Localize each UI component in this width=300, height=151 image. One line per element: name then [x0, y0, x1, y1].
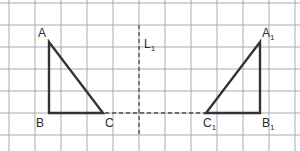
- vertex-label-main: A: [262, 26, 270, 40]
- vertex-label-b1: B1: [262, 116, 275, 132]
- vertex-labels-layer: ABCA1B1C1: [36, 26, 275, 132]
- geometry-diagram-canvas: L1 ABCA1B1C1: [0, 0, 300, 151]
- vertex-label-subscript: 1: [270, 33, 275, 42]
- triangle-abc: [49, 42, 103, 113]
- vertex-label-b: B: [36, 116, 44, 130]
- vertex-label-c1: C1: [203, 116, 217, 132]
- vertex-label-a: A: [38, 26, 46, 40]
- mirror-line-layer: L1: [139, 25, 156, 135]
- vertex-label-main: A: [38, 26, 46, 40]
- reflection-figure: L1 ABCA1B1C1: [0, 0, 300, 151]
- vertex-label-c: C: [105, 116, 114, 130]
- vertex-label-subscript: 1: [270, 123, 275, 132]
- grid-layer: [0, 0, 300, 151]
- triangle-a1b1c1: [206, 42, 260, 113]
- mirror-line-label: L1: [144, 37, 156, 53]
- vertex-label-subscript: 1: [212, 123, 217, 132]
- vertex-label-main: C: [203, 116, 212, 130]
- mirror-line-label-subscript: 1: [151, 44, 156, 53]
- vertex-label-a1: A1: [262, 26, 275, 42]
- vertex-label-main: B: [262, 116, 270, 130]
- vertex-label-main: B: [36, 116, 44, 130]
- vertex-label-main: C: [105, 116, 114, 130]
